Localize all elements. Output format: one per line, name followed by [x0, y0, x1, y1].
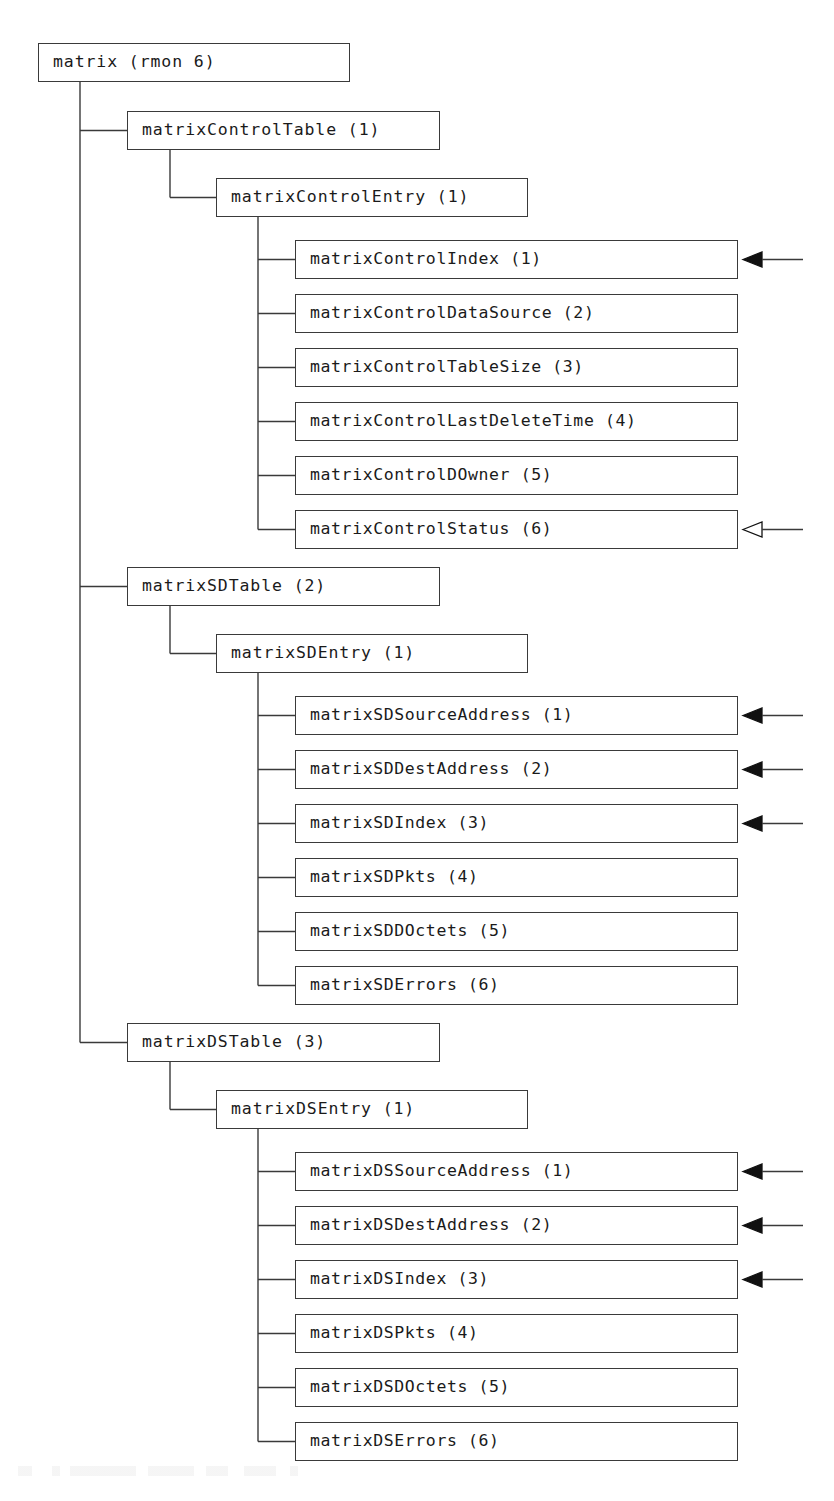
node-matrixControlEntry: matrixControlEntry (1): [216, 178, 528, 217]
node-label: matrix (rmon 6): [39, 54, 216, 71]
node-matrixSDSourceAddress: matrixSDSourceAddress (1): [295, 696, 738, 735]
node-matrixSDTable: matrixSDTable (2): [127, 567, 440, 606]
node-label: matrixSDTable (2): [128, 578, 326, 595]
node-matrixControlTable: matrixControlTable (1): [127, 111, 440, 150]
node-label: matrixSDEntry (1): [217, 645, 415, 662]
node-matrixControlLastDeleteTime: matrixControlLastDeleteTime (4): [295, 402, 738, 441]
node-label: matrixDSTable (3): [128, 1034, 326, 1051]
node-matrixDSErrors: matrixDSErrors (6): [295, 1422, 738, 1461]
node-label: matrixSDIndex (3): [296, 815, 489, 832]
marker-arrow-matrixSDIndex-head: [743, 816, 762, 831]
node-label: matrixSDDestAddress (2): [296, 761, 552, 778]
node-matrixControlStatus: matrixControlStatus (6): [295, 510, 738, 549]
node-label: matrixDSEntry (1): [217, 1101, 415, 1118]
node-label: matrixDSSourceAddress (1): [296, 1163, 573, 1180]
node-label: matrixDSDestAddress (2): [296, 1217, 552, 1234]
node-matrixControlIndex: matrixControlIndex (1): [295, 240, 738, 279]
marker-arrow-matrixSDDestAddress-head: [743, 762, 762, 777]
node-label: matrixControlStatus (6): [296, 521, 552, 538]
node-matrixDSEntry: matrixDSEntry (1): [216, 1090, 528, 1129]
marker-arrow-matrixDSDestAddress-head: [743, 1218, 762, 1233]
node-matrixSDErrors: matrixSDErrors (6): [295, 966, 738, 1005]
node-label: matrixControlIndex (1): [296, 251, 542, 268]
marker-arrow-matrixControlIndex-head: [743, 252, 762, 267]
node-matrixDSTable: matrixDSTable (3): [127, 1023, 440, 1062]
node-label: matrixControlDataSource (2): [296, 305, 594, 322]
node-matrixControlDataSource: matrixControlDataSource (2): [295, 294, 738, 333]
node-label: matrixSDErrors (6): [296, 977, 500, 994]
node-label: matrixControlTableSize (3): [296, 359, 584, 376]
node-label: matrixSDSourceAddress (1): [296, 707, 573, 724]
node-label: matrixDSErrors (6): [296, 1433, 500, 1450]
node-matrixSDDOctets: matrixSDDOctets (5): [295, 912, 738, 951]
node-matrixSDIndex: matrixSDIndex (3): [295, 804, 738, 843]
node-matrixDSSourceAddress: matrixDSSourceAddress (1): [295, 1152, 738, 1191]
node-label: matrixSDPkts (4): [296, 869, 479, 886]
node-label: matrixControlLastDeleteTime (4): [296, 413, 637, 430]
node-matrixSDDestAddress: matrixSDDestAddress (2): [295, 750, 738, 789]
mib-tree-diagram: matrix (rmon 6)matrixControlTable (1)mat…: [0, 0, 834, 1501]
node-label: matrixDSDOctets (5): [296, 1379, 510, 1396]
node-matrixDSDOctets: matrixDSDOctets (5): [295, 1368, 738, 1407]
node-label: matrixDSIndex (3): [296, 1271, 489, 1288]
page-scan-artifact: [18, 1466, 348, 1476]
marker-arrow-matrixControlStatus-head: [743, 522, 762, 537]
node-matrixDSDestAddress: matrixDSDestAddress (2): [295, 1206, 738, 1245]
marker-arrow-matrixDSSourceAddress-head: [743, 1164, 762, 1179]
node-label: matrixControlEntry (1): [217, 189, 469, 206]
node-label: matrixDSPkts (4): [296, 1325, 479, 1342]
node-label: matrixControlDOwner (5): [296, 467, 552, 484]
node-label: matrixControlTable (1): [128, 122, 380, 139]
node-matrixSDPkts: matrixSDPkts (4): [295, 858, 738, 897]
marker-arrow-matrixDSIndex-head: [743, 1272, 762, 1287]
node-matrixSDEntry: matrixSDEntry (1): [216, 634, 528, 673]
node-matrix-root: matrix (rmon 6): [38, 43, 350, 82]
node-matrixDSIndex: matrixDSIndex (3): [295, 1260, 738, 1299]
node-matrixControlDOwner: matrixControlDOwner (5): [295, 456, 738, 495]
node-matrixControlTableSize: matrixControlTableSize (3): [295, 348, 738, 387]
marker-arrow-matrixSDSourceAddress-head: [743, 708, 762, 723]
node-matrixDSPkts: matrixDSPkts (4): [295, 1314, 738, 1353]
node-label: matrixSDDOctets (5): [296, 923, 510, 940]
